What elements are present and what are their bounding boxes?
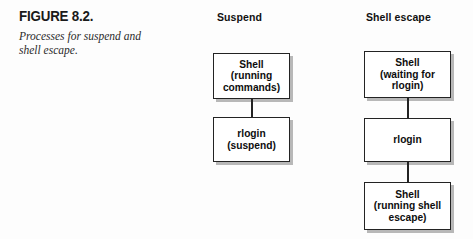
figure-caption-block: FIGURE 8.2. Processes for suspend and sh…: [19, 9, 169, 57]
figure-title: FIGURE 8.2.: [19, 9, 157, 24]
node-suspend-rlogin-label: rlogin (suspend): [225, 128, 278, 151]
column-title-suspend: Suspend: [217, 11, 262, 23]
node-escape-rlogin-label: rlogin: [391, 134, 423, 146]
figure-page: FIGURE 8.2. Processes for suspend and sh…: [0, 0, 473, 239]
node-suspend-shell: Shell (running commands): [213, 53, 290, 99]
connector-suspend-shell-to-rlogin: [251, 99, 253, 117]
connector-escape-rlogin-to-shell: [407, 162, 409, 182]
node-suspend-shell-label: Shell (running commands): [221, 59, 282, 94]
node-escape-rlogin: rlogin: [364, 118, 451, 162]
connector-escape-shell-to-rlogin: [407, 98, 409, 118]
column-suspend: Suspend Shell (running commands) rlogin …: [213, 0, 293, 239]
node-escape-shell-running-label: Shell (running shell escape): [372, 189, 443, 224]
node-escape-shell-running: Shell (running shell escape): [364, 182, 451, 230]
node-suspend-rlogin: rlogin (suspend): [213, 117, 290, 162]
column-title-shell-escape: Shell escape: [366, 11, 431, 23]
node-escape-shell-waiting: Shell (waiting for rlogin): [364, 51, 451, 98]
column-shell-escape: Shell escape Shell (waiting for rlogin) …: [364, 0, 456, 239]
figure-description: Processes for suspend and shell escape.: [19, 30, 144, 57]
node-escape-shell-waiting-label: Shell (waiting for rlogin): [378, 57, 437, 92]
